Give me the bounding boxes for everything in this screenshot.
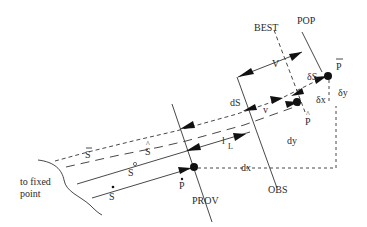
dS-arrowhead-right xyxy=(270,96,283,104)
p-bar-point xyxy=(324,72,332,80)
p-hat-accent: ^ xyxy=(306,110,310,119)
lL-arrowhead-right xyxy=(233,133,246,141)
V-arrowhead-right xyxy=(289,52,302,61)
label-p-dot: P xyxy=(179,180,185,191)
p-dot-accent xyxy=(181,178,183,180)
label-to-fixed: to fixed xyxy=(20,176,51,187)
label-s-dot: S xyxy=(109,191,115,202)
p-hat-point xyxy=(293,98,301,106)
s-dot-arrowhead xyxy=(178,167,191,174)
label-s-circ: S xyxy=(128,167,134,178)
label-p-bar: P xyxy=(336,61,342,72)
label-deltax: δx xyxy=(316,94,326,105)
label-L: L xyxy=(228,142,233,151)
s-dot-accent xyxy=(112,186,115,189)
pop-line xyxy=(302,32,322,72)
p-dot-point xyxy=(190,163,198,171)
deltaS-arrowhead-left xyxy=(291,88,304,96)
label-deltay: δy xyxy=(338,87,348,98)
label-dx: dx xyxy=(241,162,251,173)
s-hat-accent: ^ xyxy=(146,140,150,149)
s-dot-path xyxy=(92,168,192,198)
v-arrowhead-left xyxy=(243,104,257,111)
s-circ-accent xyxy=(133,162,136,165)
label-best: BEST xyxy=(254,22,278,33)
label-dy: dy xyxy=(287,135,297,146)
label-s-bar: S xyxy=(85,149,91,160)
label-deltaS: δS xyxy=(307,71,317,82)
label-dS: dS xyxy=(230,97,241,108)
fixed-point-boundary-curve xyxy=(38,160,102,215)
lL-arrowhead-left xyxy=(186,143,201,151)
label-v: v xyxy=(263,104,268,115)
label-prov: PROV xyxy=(192,195,219,206)
label-obs: OBS xyxy=(268,184,287,195)
V-arrowhead-left xyxy=(238,68,254,77)
label-V: V xyxy=(272,58,280,69)
dS-arrowhead-left xyxy=(180,121,195,129)
label-pop: POP xyxy=(297,15,316,26)
geodetic-position-diagram: POP BEST OBS PROV V δS dS v δx δy dy dx … xyxy=(0,0,367,227)
label-l: l xyxy=(222,135,225,146)
label-point: point xyxy=(20,188,41,199)
